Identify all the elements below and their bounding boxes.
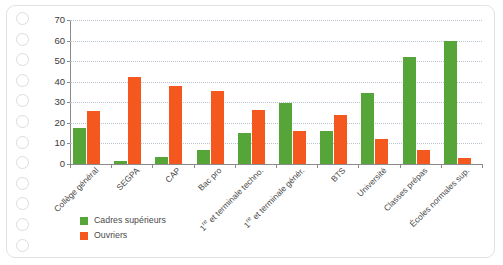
y-axis-tick-label: 10 [54,139,65,149]
bar-cadres-superieurs [238,133,251,164]
bar-cadres-superieurs [444,41,457,164]
x-axis-tick-label: CAP [164,166,182,184]
y-axis-tick-label: 60 [54,36,65,46]
y-axis-tick-label: 40 [54,77,65,87]
bar-cadres-superieurs [403,57,416,164]
bar-group [111,20,152,164]
legend-color-swatch [80,232,88,240]
bar-cadres-superieurs [279,103,292,164]
bar-group [70,20,111,164]
punch-hole [16,12,29,25]
bar-ouvriers [458,158,471,164]
legend-color-swatch [80,217,88,225]
punch-hole [16,218,29,231]
bar-chart: 010203040506070 Collège généralSEGPACAPB… [44,14,490,254]
bar-group [400,20,441,164]
bar-group [441,20,482,164]
x-axis-tick-label: SEGPA [115,166,141,192]
bar-cadres-superieurs [361,93,374,164]
bar-group [152,20,193,164]
bars-layer [70,20,482,164]
bar-cadres-superieurs [114,161,127,164]
punch-hole [16,115,29,128]
bar-group [358,20,399,164]
punch-hole [16,156,29,169]
chart-legend: Cadres supérieursOuvriers [80,214,166,244]
legend-label: Ouvriers [94,231,127,240]
bar-ouvriers [375,139,388,164]
bar-ouvriers [211,91,224,164]
punch-hole [16,94,29,107]
x-axis-tick-label: Collège général [52,166,100,214]
y-axis-tick-label: 70 [54,15,65,25]
bar-group [235,20,276,164]
bar-cadres-superieurs [73,128,86,164]
x-tick-mark [482,164,483,168]
bar-cadres-superieurs [197,150,210,164]
bar-group [194,20,235,164]
legend-item: Ouvriers [80,229,166,242]
bar-ouvriers [293,131,306,164]
punch-hole [16,74,29,87]
punch-hole [16,197,29,210]
x-axis-tick-label: Université [356,166,389,199]
punch-hole [16,53,29,66]
punch-hole [16,177,29,190]
bar-cadres-superieurs [155,157,168,164]
y-axis-tick-label: 50 [54,56,65,66]
legend-label: Cadres supérieurs [94,216,166,225]
y-axis-tick-label: 20 [54,118,65,128]
bar-group [276,20,317,164]
punch-hole [16,33,29,46]
chart-page: 010203040506070 Collège généralSEGPACAPB… [0,0,503,265]
y-axis-tick-label: 0 [60,159,65,169]
bar-group [317,20,358,164]
bar-cadres-superieurs [320,131,333,164]
legend-item: Cadres supérieurs [80,214,166,227]
punch-hole [16,136,29,149]
bar-ouvriers [417,150,430,164]
bar-ouvriers [128,77,141,164]
x-axis-tick-label: Bac pro [197,166,224,193]
y-axis-tick-label: 30 [54,98,65,108]
bar-ouvriers [334,115,347,164]
bar-ouvriers [169,86,182,164]
punch-hole [16,239,29,252]
bar-ouvriers [252,110,265,165]
plot-area: 010203040506070 [70,20,482,164]
x-axis-tick-label: BTS [330,166,348,184]
bar-ouvriers [87,111,100,164]
punch-hole-column [12,12,38,252]
